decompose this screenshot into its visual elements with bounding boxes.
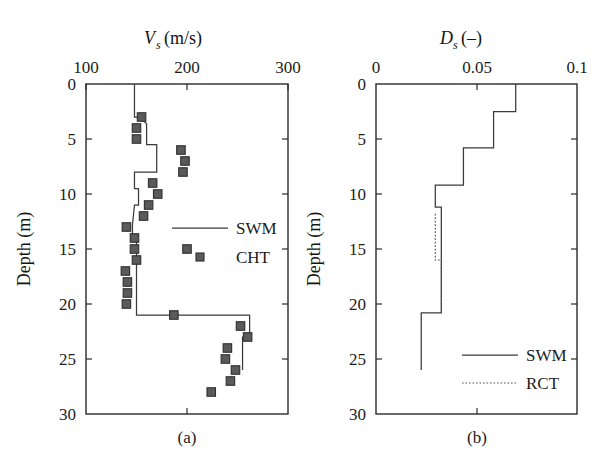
panel-a-legend-label-cht: CHT xyxy=(236,248,271,267)
panel-a-ytick-label-6: 30 xyxy=(59,405,76,424)
panel-b-xtick-label-1: 0.05 xyxy=(462,58,492,77)
panel-b: D s (–) 0 0.05 0.1 Depth (m) 0 5 10 15 2… xyxy=(304,28,588,447)
cht-data-point xyxy=(207,388,216,397)
panel-b-xaxis-title: D s (–) xyxy=(439,28,482,52)
cht-data-point xyxy=(144,201,153,210)
panel-b-ytick-label-2: 10 xyxy=(349,185,366,204)
panel-b-xaxis-units: (–) xyxy=(461,28,482,49)
panel-a-xaxis-subscript: s xyxy=(156,38,161,52)
cht-data-point xyxy=(179,168,188,177)
cht-data-point xyxy=(123,278,132,287)
panel-a-legend-swatch-cht xyxy=(196,253,204,261)
cht-data-point xyxy=(132,124,141,133)
panel-a-ytick-label-3: 15 xyxy=(59,240,76,259)
cht-data-point xyxy=(181,157,190,166)
panel-a-xaxis-units: (m/s) xyxy=(164,28,202,49)
panel-a-yaxis-title: Depth (m) xyxy=(14,212,35,286)
cht-data-point xyxy=(122,223,130,232)
figure-container: V s (m/s) 100 200 300 Depth (m) 0 5 10 1… xyxy=(0,0,615,469)
cht-data-point xyxy=(183,245,192,254)
panel-a-xaxis-title: V s (m/s) xyxy=(144,28,202,52)
panel-a-ytick-label-0: 0 xyxy=(68,75,77,94)
cht-data-point xyxy=(130,245,139,254)
cht-data-point xyxy=(148,179,157,188)
cht-data-point xyxy=(132,135,141,144)
cht-data-point xyxy=(231,366,240,375)
panel-a-ytick-label-5: 25 xyxy=(59,350,76,369)
panel-b-ytick-label-0: 0 xyxy=(358,75,367,94)
panel-a-ytick-label-1: 5 xyxy=(68,130,77,149)
panel-b-ytick-label-1: 5 xyxy=(358,130,367,149)
cht-data-point xyxy=(130,234,139,243)
panel-b-rct-profile xyxy=(435,214,441,313)
cht-data-point xyxy=(132,256,141,265)
panel-b-label: (b) xyxy=(467,428,487,447)
cht-data-point xyxy=(226,377,235,386)
cht-data-point xyxy=(122,300,130,309)
cht-data-point xyxy=(221,355,230,364)
panel-b-ytick-label-5: 25 xyxy=(349,350,366,369)
panel-b-ytick-label-3: 15 xyxy=(349,240,366,259)
panel-b-legend-label-rct: RCT xyxy=(526,374,560,393)
panel-a-ytick-label-4: 20 xyxy=(59,295,76,314)
cht-data-point xyxy=(153,190,162,199)
scientific-figure: V s (m/s) 100 200 300 Depth (m) 0 5 10 1… xyxy=(0,0,615,469)
panel-b-swm-profile xyxy=(421,84,515,370)
panel-a-xtick-label-1: 200 xyxy=(174,58,200,77)
panel-b-xaxis-subscript: s xyxy=(453,38,458,52)
panel-a-cht-markers xyxy=(121,113,252,397)
panel-b-yaxis-title: Depth (m) xyxy=(304,212,325,286)
panel-a-xtick-label-2: 300 xyxy=(275,58,301,77)
panel-b-ytick-label-4: 20 xyxy=(349,295,366,314)
panel-b-xaxis-symbol: D xyxy=(439,28,453,48)
cht-data-point xyxy=(236,322,245,331)
panel-b-legend-label-swm: SWM xyxy=(526,346,567,365)
cht-data-point xyxy=(223,344,232,353)
cht-data-point xyxy=(243,333,252,342)
panel-a-ytick-label-2: 10 xyxy=(59,185,76,204)
cht-data-point xyxy=(139,212,148,221)
panel-a-xtick-label-0: 100 xyxy=(73,58,99,77)
cht-data-point xyxy=(170,311,179,320)
panel-b-xtick-label-0: 0 xyxy=(372,58,381,77)
panel-a-swm-profile xyxy=(132,84,249,370)
panel-b-ytick-label-6: 30 xyxy=(349,405,366,424)
cht-data-point xyxy=(137,113,146,122)
panel-a-legend-label-swm: SWM xyxy=(236,219,277,238)
cht-data-point xyxy=(177,146,186,155)
panel-a: V s (m/s) 100 200 300 Depth (m) 0 5 10 1… xyxy=(14,28,301,447)
cht-data-point xyxy=(121,267,130,276)
panel-a-label: (a) xyxy=(178,428,197,447)
panel-b-xtick-label-2: 0.1 xyxy=(566,58,587,77)
cht-data-point xyxy=(123,289,132,298)
panel-a-legend: SWM CHT xyxy=(172,219,277,267)
panel-b-legend: SWM RCT xyxy=(462,346,567,393)
